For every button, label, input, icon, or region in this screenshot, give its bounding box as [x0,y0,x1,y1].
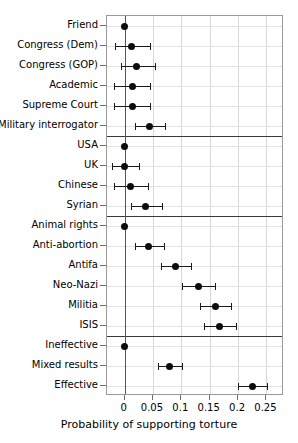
y-label-antifa: Antifa [68,260,98,270]
error-bar-cap-high [139,163,140,170]
error-bar-cap-high [150,43,151,50]
error-bar-cap-high [236,323,237,330]
x-tick-3 [209,395,210,400]
error-bar-cap-low [114,83,115,90]
data-point [166,363,173,370]
error-bar-cap-low [204,323,205,330]
data-point [216,323,223,330]
gridline-y-17 [107,366,282,367]
data-point [212,303,219,310]
data-point [195,283,202,290]
data-point [129,83,136,90]
gridline-y-0 [107,26,282,27]
error-bar-cap-low [114,183,115,190]
data-point [121,23,128,30]
data-point [146,123,153,130]
group-separator-0 [107,136,282,137]
error-bar-cap-high [215,283,216,290]
y-label-supreme-court: Supreme Court [22,100,98,110]
gridline-x-1 [153,16,154,394]
error-bar-cap-low [182,283,183,290]
y-label-syrian: Syrian [66,200,98,210]
y-label-effective: Effective [54,380,98,390]
group-separator-2 [107,336,282,337]
y-label-militia: Militia [68,300,98,310]
error-bar-cap-low [131,203,132,210]
data-point [127,183,134,190]
y-label-congress-gop: Congress (GOP) [19,60,98,70]
error-bar-cap-low [114,103,115,110]
gridline-y-11 [107,246,282,247]
error-bar-cap-low [200,303,201,310]
y-label-usa: USA [77,140,98,150]
y-label-uk: UK [84,160,98,170]
gridline-y-16 [107,346,282,347]
gridline-x-2 [181,16,182,394]
error-bar-cap-high [150,83,151,90]
error-bar-cap-high [267,383,268,390]
coefficient-plot: FriendCongress (Dem)Congress (GOP)Academ… [0,0,298,443]
x-tick-0 [124,395,125,400]
error-bar-cap-high [150,103,151,110]
error-bar-cap-high [165,123,166,130]
x-tick-5 [265,395,266,400]
group-separator-1 [107,216,282,217]
error-bar-cap-high [148,183,149,190]
data-point [172,263,179,270]
gridline-y-15 [107,326,282,327]
error-bar-cap-low [158,363,159,370]
y-label-academic: Academic [49,80,98,90]
error-bar-cap-high [231,303,232,310]
y-label-military-interrogator: Military interrogator [0,120,98,130]
gridline-y-14 [107,306,282,307]
y-label-ineffective: Ineffective [45,340,98,350]
y-label-mixed-results: Mixed results [32,360,98,370]
error-bar-cap-high [191,263,192,270]
gridline-y-12 [107,266,282,267]
error-bar-cap-low [135,123,136,130]
data-point [121,223,128,230]
error-bar-cap-low [121,63,122,70]
y-label-chinese: Chinese [58,180,98,190]
gridline-y-6 [107,146,282,147]
error-bar-cap-low [161,263,162,270]
x-tick-2 [180,395,181,400]
data-point [121,343,128,350]
gridline-x-4 [238,16,239,394]
data-point [249,383,256,390]
error-bar-cap-low [115,43,116,50]
gridline-y-5 [107,126,282,127]
error-bar-cap-low [112,163,113,170]
error-bar-cap-high [155,63,156,70]
error-bar-cap-high [182,363,183,370]
data-point [121,143,128,150]
x-tick-4 [237,395,238,400]
y-label-isis: ISIS [79,320,98,330]
gridline-y-10 [107,226,282,227]
data-point [129,103,136,110]
x-axis-title: Probability of supporting torture [0,418,298,431]
error-bar-cap-low [238,383,239,390]
x-tick-label-2: 0.1 [160,403,200,413]
y-label-friend: Friend [67,20,98,30]
y-label-anti-abortion: Anti-abortion [33,240,98,250]
error-bar-cap-low [135,243,136,250]
error-bar-cap-high [162,203,163,210]
gridline-x-5 [266,16,267,394]
plot-area [106,15,283,395]
x-tick-label-3: 0.15 [189,403,229,413]
y-label-congress-dem: Congress (Dem) [17,40,98,50]
data-point [133,63,140,70]
zero-line [125,16,126,394]
x-tick-label-4: 0.2 [217,403,257,413]
error-bar-cap-high [164,243,165,250]
x-tick-label-1: 0.05 [132,403,172,413]
y-label-animal-rights: Animal rights [32,220,99,230]
data-point [128,43,135,50]
x-tick-label-0: 0 [104,403,144,413]
gridline-x-3 [210,16,211,394]
x-tick-label-5: 0.25 [245,403,285,413]
y-label-neo-nazi: Neo-Nazi [53,280,98,290]
data-point [121,163,128,170]
data-point [142,203,149,210]
